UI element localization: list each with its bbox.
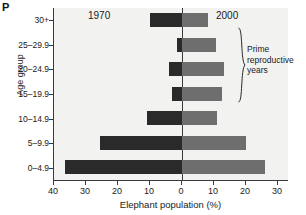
- x-tick-label: 20: [105, 186, 129, 196]
- x-tick-mark: [245, 181, 246, 185]
- bar-2000: [182, 160, 265, 174]
- x-tick-mark: [85, 181, 86, 185]
- x-tick-label: 10: [201, 186, 225, 196]
- annotation-line-2: reproductive: [247, 55, 305, 66]
- prime-reproductive-brace: [238, 27, 246, 103]
- bar-row: [54, 82, 288, 107]
- x-tick-mark: [213, 181, 214, 185]
- bar-2000: [182, 136, 246, 150]
- y-tick-label: 25–29.9: [0, 40, 49, 50]
- bar-row: [54, 155, 288, 180]
- x-axis-line: [53, 180, 288, 181]
- y-tick-mark: [49, 94, 53, 95]
- x-tick-label: 40: [41, 186, 65, 196]
- y-tick-mark: [49, 168, 53, 169]
- bar-1970: [172, 87, 182, 101]
- x-tick-mark: [53, 181, 54, 185]
- y-tick-label: 10–14.9: [0, 114, 49, 124]
- y-tick-label: 0–4.9: [0, 163, 49, 173]
- bar-row: [54, 106, 288, 131]
- bar-2000: [182, 87, 222, 101]
- bar-1970: [65, 160, 182, 174]
- series-label-1970: 1970: [88, 10, 110, 21]
- bar-1970: [100, 136, 182, 150]
- bar-1970: [169, 62, 182, 76]
- x-tick-label: 30: [265, 186, 289, 196]
- population-pyramid-figure: P Age group 30+25–29.920–24.915–19.910–1…: [0, 0, 306, 215]
- x-tick-mark: [181, 181, 182, 185]
- y-tick-mark: [49, 143, 53, 144]
- x-tick-mark: [149, 181, 150, 185]
- panel-letter: P: [2, 2, 9, 13]
- x-tick-label: 30: [73, 186, 97, 196]
- bar-2000: [182, 38, 216, 52]
- x-tick-mark: [117, 181, 118, 185]
- annotation-line-1: Prime: [247, 44, 305, 55]
- x-tick-label: 20: [233, 186, 257, 196]
- prime-reproductive-annotation: Prime reproductive years: [247, 44, 305, 76]
- y-tick-mark: [49, 119, 53, 120]
- y-tick-mark: [49, 20, 53, 21]
- bar-1970: [147, 111, 182, 125]
- plot-area: [53, 8, 288, 180]
- y-tick-mark: [49, 45, 53, 46]
- x-tick-mark: [277, 181, 278, 185]
- x-tick-label: 10: [137, 186, 161, 196]
- y-tick-mark: [49, 69, 53, 70]
- bar-1970: [150, 13, 182, 27]
- bar-2000: [182, 62, 224, 76]
- y-tick-label: 15–19.9: [0, 89, 49, 99]
- series-label-2000: 2000: [216, 10, 238, 21]
- bar-2000: [182, 111, 217, 125]
- y-tick-label: 30+: [0, 15, 49, 25]
- annotation-line-3: years: [247, 65, 305, 76]
- x-tick-label: 0: [169, 186, 193, 196]
- y-tick-label: 5–9.9: [0, 138, 49, 148]
- bar-2000: [182, 13, 208, 27]
- x-axis-title: Elephant population (%): [53, 199, 288, 210]
- bar-row: [54, 131, 288, 156]
- y-tick-label: 20–24.9: [0, 64, 49, 74]
